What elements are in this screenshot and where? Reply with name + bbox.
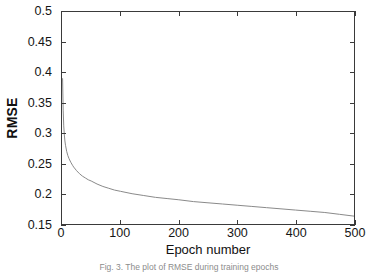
y-tick-label: 0.2 [35, 188, 52, 201]
x-tick-label: 500 [345, 227, 366, 240]
y-tick-label: 0.3 [35, 127, 52, 140]
y-tick-label: 0.45 [28, 35, 52, 48]
y-tick-label: 0.5 [35, 5, 52, 18]
x-tick-label: 100 [109, 227, 130, 240]
x-tick-mark [355, 11, 356, 16]
x-axis-title: Epoch number [61, 243, 355, 256]
y-tick-label: 0.4 [35, 66, 52, 79]
x-tick-label: 200 [168, 227, 189, 240]
x-tick-label: 400 [286, 227, 307, 240]
y-tick-label: 0.35 [28, 96, 52, 109]
x-tick-mark [355, 220, 356, 225]
plot-area [61, 11, 355, 225]
x-tick-label: 300 [227, 227, 248, 240]
rmse-curve [62, 12, 354, 224]
figure-caption: Fig. 3. The plot of RMSE during training… [0, 262, 378, 272]
y-tick-label: 0.25 [28, 158, 52, 171]
y-axis-title: RMSE [2, 11, 22, 225]
x-axis-ticklabels: 0100200300400500 [61, 227, 355, 243]
figure-rmse-vs-epoch: 0.150.20.250.30.350.40.450.5 01002003004… [0, 0, 378, 275]
x-tick-label: 0 [58, 227, 65, 240]
y-tick-label: 0.15 [28, 219, 52, 232]
